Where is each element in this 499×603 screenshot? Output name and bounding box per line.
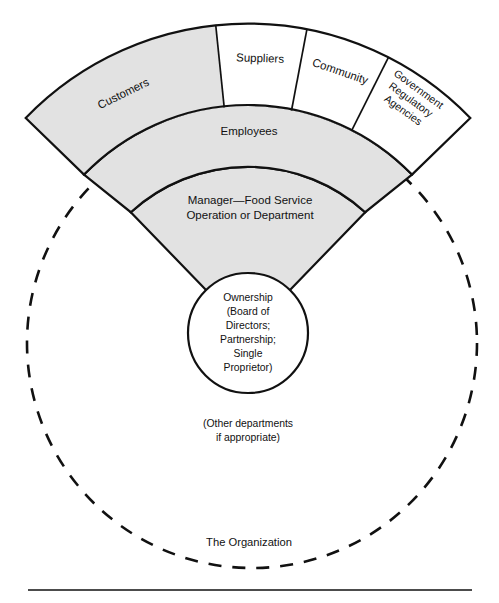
label-ownership-line-4: Partnership; bbox=[220, 334, 276, 345]
label-the-organization: The Organization bbox=[206, 536, 292, 548]
diagram-canvas: Customers Suppliers Community Government… bbox=[0, 0, 499, 603]
label-employees: Employees bbox=[221, 125, 278, 137]
label-other-departments-line-2: if appropriate) bbox=[216, 432, 280, 443]
label-manager-line-2: Operation or Department bbox=[186, 209, 314, 221]
label-ownership-line-5: Single bbox=[234, 348, 263, 359]
label-ownership-line-3: Directors; bbox=[226, 320, 270, 331]
label-suppliers: Suppliers bbox=[236, 51, 285, 65]
label-ownership-line-1: Ownership bbox=[223, 292, 273, 303]
label-manager-line-1: Manager—Food Service bbox=[188, 194, 313, 206]
label-ownership-line-6: Proprietor) bbox=[223, 362, 272, 373]
label-ownership-line-2: (Board of bbox=[227, 306, 270, 317]
label-other-departments-line-1: (Other departments bbox=[203, 418, 293, 429]
ownership-circle bbox=[188, 273, 308, 393]
organization-fan-diagram: Customers Suppliers Community Government… bbox=[0, 0, 499, 603]
